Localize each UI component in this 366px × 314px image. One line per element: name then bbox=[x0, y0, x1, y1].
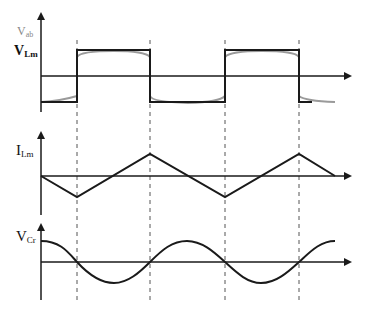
panel-vab-vlm: Vab VLm bbox=[14, 14, 350, 112]
label-vlm: VLm bbox=[14, 43, 38, 59]
label-vab: Vab bbox=[17, 24, 33, 39]
panel-ilm: ILm bbox=[16, 133, 350, 215]
waveform-diagram: Vab VLm ILm VCr bbox=[0, 0, 366, 314]
vab-waveform bbox=[41, 51, 335, 103]
label-ilm: ILm bbox=[16, 142, 34, 159]
panel-vcr: VCr bbox=[16, 225, 350, 300]
dashed-time-markers bbox=[77, 40, 299, 300]
label-vcr: VCr bbox=[16, 228, 36, 245]
